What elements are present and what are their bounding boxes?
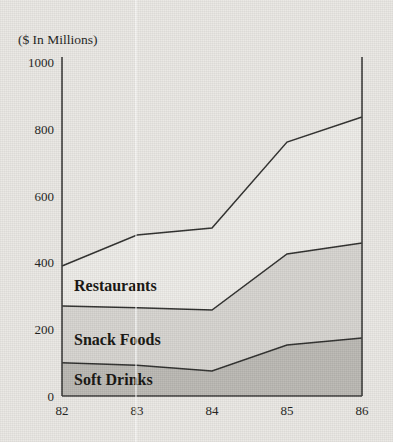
y-tick-label: 200 xyxy=(35,322,55,337)
x-axis-tick-labels: 8283848586 xyxy=(56,403,370,418)
x-tick-label: 84 xyxy=(206,403,220,418)
axis-units-title: ($ In Millions) xyxy=(18,32,98,47)
y-tick-label: 800 xyxy=(35,122,55,137)
y-axis-tick-labels: 02004006008001000 xyxy=(28,55,54,403)
y-tick-label: 600 xyxy=(35,189,55,204)
area-chart-figure: 02004006008001000 8283848586 ($ In Milli… xyxy=(0,0,393,442)
chart-canvas: 02004006008001000 8283848586 ($ In Milli… xyxy=(0,0,393,442)
area-bands xyxy=(62,117,362,396)
x-tick-label: 85 xyxy=(281,403,294,418)
series-band-label: Snack Foods xyxy=(74,331,161,348)
x-tick-label: 82 xyxy=(56,403,69,418)
series-band-label: Soft Drinks xyxy=(74,371,153,388)
series-band-label: Restaurants xyxy=(74,277,157,294)
series-band-labels: RestaurantsSnack FoodsSoft Drinks xyxy=(74,277,161,388)
y-tick-label: 0 xyxy=(48,389,55,404)
x-tick-label: 86 xyxy=(356,403,370,418)
y-tick-label: 1000 xyxy=(28,55,54,70)
y-tick-label: 400 xyxy=(35,255,55,270)
x-tick-label: 83 xyxy=(131,403,144,418)
